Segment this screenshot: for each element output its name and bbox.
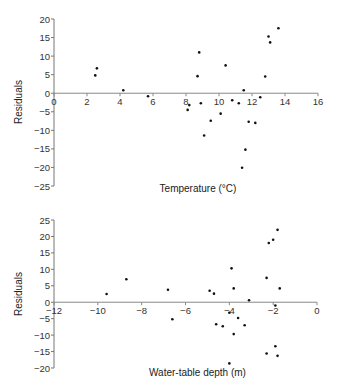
x-tick-label: −12: [46, 305, 62, 316]
x-tick-label: −4: [224, 305, 235, 316]
data-point: [238, 102, 241, 105]
y-tick-label: 25: [39, 215, 50, 226]
data-point: [254, 122, 257, 125]
data-point: [232, 333, 235, 336]
y-tick-label: −25: [34, 181, 50, 192]
y-tick-label: −10: [34, 125, 50, 136]
y-tick-label: 5: [45, 280, 50, 291]
y-tick-label: −20: [34, 363, 50, 374]
x-tick-label: 4: [117, 96, 122, 107]
water-table-residual-chart: 2520151050−5−10−15−20−12−10−8−6−4−20Wate…: [13, 215, 320, 379]
x-tick-label: 14: [280, 96, 291, 107]
data-point: [247, 120, 250, 123]
y-tick-label: 10: [39, 51, 50, 62]
data-point: [122, 89, 125, 92]
data-point: [224, 64, 227, 67]
data-point: [277, 27, 280, 30]
y-tick-label: 5: [45, 69, 50, 80]
data-point: [213, 292, 216, 295]
data-point: [215, 323, 218, 326]
data-point: [219, 112, 222, 115]
x-tick-label: 16: [313, 96, 324, 107]
data-point: [221, 325, 224, 328]
x-tick-label: −6: [180, 305, 191, 316]
y-tick-label: −10: [34, 330, 50, 341]
y-tick-label: −15: [34, 346, 50, 357]
data-point: [267, 35, 270, 38]
data-point: [147, 95, 150, 98]
x-tick-label: 10: [214, 96, 225, 107]
data-point: [125, 278, 128, 281]
x-tick-label: 0: [51, 96, 56, 107]
data-point: [276, 229, 279, 232]
data-point: [228, 311, 231, 314]
data-point: [186, 109, 189, 112]
data-point: [228, 362, 231, 365]
data-point: [198, 51, 201, 54]
data-point: [209, 119, 212, 122]
data-point: [96, 67, 99, 70]
y-tick-label: 10: [39, 264, 50, 275]
y-tick-label: 20: [39, 14, 50, 25]
data-point: [274, 304, 277, 307]
data-point: [196, 75, 199, 78]
data-point: [171, 318, 174, 321]
data-point: [232, 287, 235, 290]
data-point: [244, 148, 247, 151]
y-axis-title: Residuals: [13, 80, 24, 124]
data-point: [264, 75, 267, 78]
x-tick-label: 2: [84, 96, 89, 107]
y-axis-title: Residuals: [13, 272, 24, 316]
data-point: [243, 324, 246, 327]
data-point: [203, 134, 206, 137]
data-point: [259, 96, 262, 99]
y-tick-label: −20: [34, 162, 50, 173]
data-point: [276, 355, 279, 358]
x-tick-label: 8: [183, 96, 188, 107]
data-point: [248, 299, 251, 302]
data-point: [269, 41, 272, 44]
x-axis-title: Temperature (°C): [160, 183, 237, 194]
data-point: [242, 89, 245, 92]
data-point: [105, 293, 108, 296]
data-point: [272, 238, 275, 241]
x-tick-label: 12: [247, 96, 258, 107]
x-axis-title: Water-table depth (m): [149, 367, 246, 378]
y-tick-label: 20: [39, 231, 50, 242]
data-point: [200, 102, 203, 105]
data-point: [230, 267, 233, 270]
data-point: [237, 317, 240, 320]
data-point: [241, 167, 244, 170]
temperature-residual-chart: 20151050−5−10−15−20−250246810121416Tempe…: [13, 14, 323, 195]
x-tick-label: −8: [136, 305, 147, 316]
data-point: [94, 74, 97, 77]
data-point: [265, 352, 268, 355]
data-point: [265, 277, 268, 280]
data-point: [267, 242, 270, 245]
y-tick-label: −15: [34, 143, 50, 154]
data-point: [188, 104, 191, 107]
residual-plots: 20151050−5−10−15−20−250246810121416Tempe…: [0, 0, 337, 390]
y-tick-label: 15: [39, 32, 50, 43]
y-tick-label: 0: [45, 88, 50, 99]
data-point: [231, 99, 234, 102]
x-tick-label: −10: [90, 305, 106, 316]
x-tick-label: −2: [268, 305, 279, 316]
data-point: [208, 289, 211, 292]
data-point: [278, 287, 281, 290]
y-tick-label: −5: [39, 106, 50, 117]
x-tick-label: 0: [314, 305, 319, 316]
y-tick-label: 15: [39, 247, 50, 258]
data-point: [167, 288, 170, 291]
x-tick-label: 6: [150, 96, 155, 107]
data-point: [274, 345, 277, 348]
